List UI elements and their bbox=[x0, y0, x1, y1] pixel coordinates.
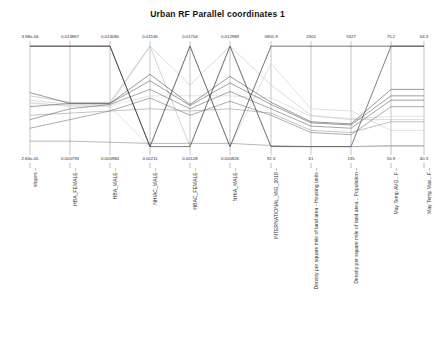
axis-name-may-temp-avg-f: May Temp AVG...F – bbox=[393, 168, 399, 215]
top-tick-6: 5805.9 bbox=[264, 32, 277, 41]
series-polyline bbox=[30, 46, 424, 146]
axis-name-density-per-square-mile-of-land-area-housing-units: Density per square mile of land area - H… bbox=[313, 168, 319, 289]
top-tick-2: 0.013080 bbox=[101, 32, 119, 41]
axis-name-labels: slopes –HBA_FEMALE –HBA_MALE –NHIAC_MALE… bbox=[0, 168, 435, 348]
axis-name-density-per-square-mile-of-land-area-population: Density per square mile of land area... … bbox=[353, 168, 359, 284]
series-polyline bbox=[30, 46, 424, 146]
top-tick-0: 3.98e-04 bbox=[22, 32, 39, 41]
bottom-tick-5: 0.000826 bbox=[221, 154, 239, 163]
top-tick-3: 0.01536 bbox=[142, 32, 158, 41]
top-tick-4: 0.01704 bbox=[182, 32, 198, 41]
axis-name-hba-male: HBA_MALE – bbox=[112, 168, 118, 199]
top-tick-1: 0.013867 bbox=[61, 32, 79, 41]
axis-name-international-mig-2018: INTERNATIONAL_MIG_2018 – bbox=[273, 168, 279, 239]
top-tick-labels: 3.98e-040.0138670.0130800.015360.017040.… bbox=[0, 32, 435, 41]
bottom-tick-10: 40.3 bbox=[420, 154, 428, 163]
bottom-tick-6: 92.3 bbox=[267, 154, 275, 163]
bottom-tick-4: 0.00128 bbox=[182, 154, 198, 163]
series-polyline bbox=[30, 46, 424, 146]
bottom-tick-2: 0.000984 bbox=[101, 154, 119, 163]
axis-name-nhia-male: NHIA_MALE – bbox=[232, 168, 238, 201]
top-tick-10: 64.3 bbox=[420, 32, 428, 41]
top-tick-8: 5327 bbox=[346, 32, 356, 41]
axis-name-slopes: slopes – bbox=[32, 168, 38, 187]
parallel-coordinates-chart: Urban RF Parallel coordinates 1 3.98e-04… bbox=[0, 0, 435, 355]
series-polyline bbox=[30, 46, 424, 146]
top-tick-7: 2305 bbox=[306, 32, 316, 41]
series-polyline bbox=[30, 141, 424, 146]
series-polyline bbox=[30, 74, 424, 124]
axis-name-may-temp-max-f: May Temp Max...F – bbox=[426, 168, 432, 214]
bottom-tick-0: 2.84e-05 bbox=[22, 154, 39, 163]
bottom-tick-8: 135 bbox=[347, 154, 354, 163]
axis-name-hbac-female: HBAC_FEMALE – bbox=[192, 168, 198, 210]
bottom-tick-1: 0.000793 bbox=[61, 154, 79, 163]
axis-name-hba-female: HBA_FEMALE – bbox=[72, 168, 78, 206]
top-tick-9: 75.2 bbox=[387, 32, 395, 41]
bottom-tick-labels: 2.84e-050.0007930.0009840.002110.001280.… bbox=[0, 154, 435, 163]
bottom-tick-3: 0.00211 bbox=[142, 154, 157, 163]
series-polyline bbox=[30, 46, 424, 119]
axis-name-nhiac-male: NHIAC_MALE – bbox=[152, 168, 158, 205]
bottom-tick-9: 50.9 bbox=[387, 154, 395, 163]
bottom-tick-7: 61 bbox=[309, 154, 314, 163]
top-tick-5: 0.012989 bbox=[221, 32, 239, 41]
